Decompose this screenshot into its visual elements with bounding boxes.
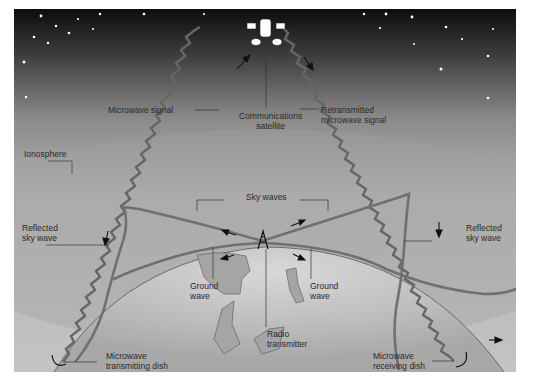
sky-waves-label: Sky waves (246, 192, 287, 202)
ground-wave-right-label: Groundwave (310, 281, 338, 301)
microwave-signal-label: Microwave signal (108, 105, 173, 115)
ground-wave-left-label: Groundwave (190, 281, 218, 301)
receiving-dish-label: Microwavereceiving dish (373, 351, 425, 371)
transmitting-dish-label: Microwavetransmitting dish (106, 351, 168, 371)
radio-transmitter-label: Radiotransmitter (267, 329, 307, 349)
retransmitted-signal-label: Retransmittedmicrowave signal (321, 105, 386, 125)
reflected-sky-wave-right-label: Reflectedsky wave (466, 223, 502, 243)
radio-transmission-diagram: Communicationssatellite Microwave signal… (14, 9, 516, 372)
reflected-sky-wave-left-label: Reflectedsky wave (22, 223, 58, 243)
ionosphere-label: Ionosphere (24, 149, 67, 159)
diagram-illustration (14, 9, 516, 372)
satellite-label: Communicationssatellite (239, 111, 302, 131)
